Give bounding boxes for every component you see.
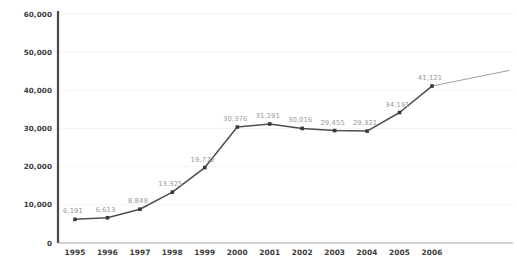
x-tick-label: 2003 xyxy=(324,248,345,257)
x-tick-label: 1998 xyxy=(162,248,183,257)
x-tick-label: 1997 xyxy=(129,248,150,257)
forecast-annotation-group xyxy=(432,70,509,86)
x-tick-labels-group: 1995199619971998199920002001200220032004… xyxy=(65,248,443,257)
line-chart: 010,00020,00030,00040,00050,00060,000 19… xyxy=(0,0,517,270)
data-point-label: 41,121 xyxy=(418,74,442,82)
data-point-label: 34,191 xyxy=(385,101,409,109)
chart-canvas: 010,00020,00030,00040,00050,00060,000 19… xyxy=(0,0,517,270)
x-tick-label: 2004 xyxy=(357,248,378,257)
y-tick-label: 40,000 xyxy=(24,86,52,95)
data-point-marker xyxy=(333,129,337,133)
data-point-label: 13,325 xyxy=(158,180,182,188)
data-point-label: 29,455 xyxy=(320,119,344,127)
data-point-label: 19,772 xyxy=(191,156,215,164)
data-point-labels-group: 6,1916,6138,84913,32519,77230,37631,1913… xyxy=(63,74,442,215)
data-point-label: 31,191 xyxy=(256,112,280,120)
data-point-marker xyxy=(73,218,77,222)
data-point-marker xyxy=(365,129,369,133)
x-tick-label: 1996 xyxy=(97,248,118,257)
data-point-marker xyxy=(235,125,239,129)
data-point-label: 30,376 xyxy=(223,115,247,123)
x-tick-label: 2005 xyxy=(389,248,410,257)
x-tick-label: 1999 xyxy=(194,248,215,257)
data-point-label: 30,016 xyxy=(288,116,312,124)
data-point-label: 6,191 xyxy=(63,207,83,215)
data-point-marker xyxy=(171,190,175,194)
y-tick-label: 50,000 xyxy=(24,48,52,57)
data-point-label: 6,613 xyxy=(95,206,115,214)
y-tick-label: 20,000 xyxy=(24,162,52,171)
y-tick-labels-group: 010,00020,00030,00040,00050,00060,000 xyxy=(24,10,52,248)
data-point-marker xyxy=(268,122,272,126)
data-point-marker xyxy=(203,166,207,170)
x-tick-label: 2002 xyxy=(292,248,313,257)
y-tick-label: 0 xyxy=(47,239,52,248)
gridlines-group xyxy=(58,14,513,205)
data-point-marker xyxy=(300,127,304,131)
forecast-squiggle-line xyxy=(432,70,509,86)
y-tick-label: 10,000 xyxy=(24,200,52,209)
y-tick-label: 60,000 xyxy=(24,10,52,19)
data-point-marker xyxy=(138,207,142,211)
data-point-label: 29,321 xyxy=(353,119,377,127)
data-point-marker xyxy=(398,111,402,115)
data-point-label: 8,849 xyxy=(128,197,148,205)
x-tick-label: 2000 xyxy=(227,248,248,257)
data-point-marker xyxy=(430,84,434,88)
x-tick-label: 2001 xyxy=(259,248,280,257)
x-tick-label: 1995 xyxy=(65,248,86,257)
y-tick-label: 30,000 xyxy=(24,124,52,133)
x-tick-label: 2006 xyxy=(422,248,443,257)
data-point-marker xyxy=(106,216,110,220)
